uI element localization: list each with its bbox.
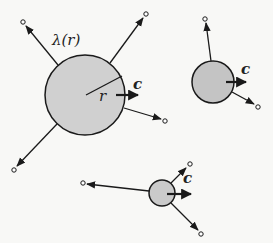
velocity-label-medium: c (241, 60, 250, 78)
ray-endpoint-marker (144, 12, 148, 16)
ray-endpoint-marker (163, 119, 167, 123)
particle-diagram: λ(r) r c c c (0, 0, 273, 243)
ray-endpoint-marker (188, 162, 192, 166)
ray-endpoint-marker (21, 20, 25, 24)
ray-endpoint-marker (81, 181, 85, 185)
emission-ray-arrow (87, 184, 149, 191)
velocity-label-large: c (133, 75, 142, 93)
ray-endpoint-marker (12, 168, 16, 172)
ray-endpoint-marker (203, 17, 207, 21)
rate-label: λ(r) (51, 31, 81, 49)
ray-endpoint-marker (199, 232, 203, 236)
velocity-label-small: c (183, 169, 192, 187)
emission-ray-arrow (171, 203, 198, 230)
emission-ray-arrow (110, 18, 143, 63)
radius-label: r (99, 87, 107, 105)
ray-endpoint-marker (256, 105, 260, 109)
emission-ray-arrow (206, 23, 211, 61)
emission-ray-arrow (124, 108, 161, 119)
emission-ray-arrow (232, 92, 254, 104)
emission-ray-arrow (17, 124, 57, 166)
large-particle (45, 55, 125, 135)
